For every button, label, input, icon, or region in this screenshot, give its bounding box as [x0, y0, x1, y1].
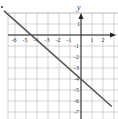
y-tick-label: 1 [77, 21, 80, 27]
y-tick-label: -6 [74, 98, 79, 104]
x-tick-label: -5 [23, 37, 28, 43]
x-tick-label: 1 [91, 37, 94, 43]
x-tick-label: 2 [102, 37, 105, 43]
x-tick-label: -6 [12, 37, 17, 43]
x-tick-label: -2 [56, 37, 61, 43]
y-tick-label: -5 [74, 87, 79, 93]
y-tick-label: -2 [74, 54, 79, 60]
problem-bullet [1, 6, 3, 8]
data-line [4, 11, 112, 107]
coordinate-plane: -6-5-4-3-2-1121-1-2-3-4-5-6-7 y [0, 0, 118, 119]
y-tick-label: -7 [74, 109, 79, 115]
y-axis-label: y [76, 3, 81, 12]
x-tick-label: -1 [67, 37, 72, 43]
y-tick-label: -3 [74, 65, 79, 71]
x-tick-label: -3 [45, 37, 50, 43]
y-tick-label: -1 [74, 43, 79, 49]
